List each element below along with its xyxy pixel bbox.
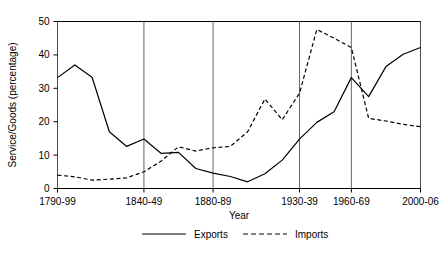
plot-frame [58,22,421,189]
y-tick-label-50: 50 [38,16,50,27]
y-tick-label-0: 0 [44,183,50,194]
y-axis: 01020304050 [38,16,57,194]
vertical-gridlines [58,22,421,189]
x-tick-label-1840-49: 1840-49 [126,196,163,207]
y-tick-label-30: 30 [38,83,50,94]
y-tick-label-20: 20 [38,116,50,127]
x-tick-label-1930-39: 1930-39 [281,196,318,207]
series-line-imports [58,30,421,181]
chart-legend: Exports Imports [142,229,328,240]
data-series-layer [58,30,421,182]
x-axis: 1790-991840-491880-891930-391960-692000-… [39,189,439,207]
x-axis-title: Year [229,210,250,221]
y-axis-title: Service/Goods (percentage) [7,42,18,167]
x-tick-label-2000-06: 2000-06 [402,196,439,207]
x-tick-label-1960-69: 1960-69 [333,196,370,207]
y-tick-label-10: 10 [38,150,50,161]
x-tick-label-1790-99: 1790-99 [39,196,76,207]
legend-label-imports: Imports [295,229,328,240]
series-line-exports [58,48,421,182]
line-chart: 01020304050 1790-991840-491880-891930-39… [0,0,441,253]
y-tick-label-40: 40 [38,49,50,60]
legend-label-exports: Exports [194,229,228,240]
x-tick-label-1880-89: 1880-89 [195,196,232,207]
chart-figure: 01020304050 1790-991840-491880-891930-39… [0,0,441,253]
